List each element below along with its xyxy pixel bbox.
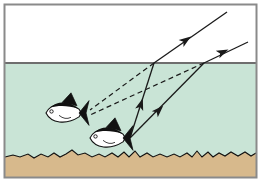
real-fish-eye xyxy=(94,135,97,138)
refraction-diagram-figure xyxy=(0,0,261,182)
air-region xyxy=(5,5,256,63)
virtual-image-fish-eye xyxy=(50,110,53,113)
diagram-canvas xyxy=(0,0,261,182)
